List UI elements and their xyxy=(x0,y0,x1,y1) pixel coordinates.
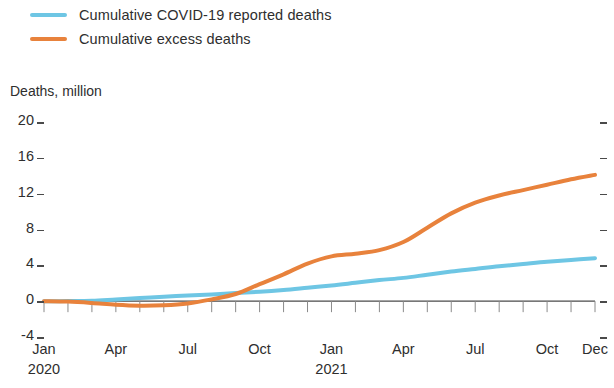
x-axis-tick-label: Apr xyxy=(105,341,128,357)
y-axis-tick-label: 0 xyxy=(8,291,34,307)
plot-svg xyxy=(0,0,614,388)
x-axis-tick-label: Jan xyxy=(32,341,55,357)
y-axis-tick-mark-right xyxy=(600,122,607,124)
y-axis-tick-mark-right xyxy=(600,337,607,339)
chart-figure: Cumulative COVID-19 reported deaths Cumu… xyxy=(0,0,614,388)
y-axis-tick-mark-right xyxy=(600,301,607,303)
y-axis-tick-mark xyxy=(37,158,44,160)
y-axis-tick-mark-right xyxy=(600,265,607,267)
y-axis-tick-mark-right xyxy=(600,158,607,160)
y-axis-tick-label: 16 xyxy=(8,148,34,164)
y-axis-tick-label: 8 xyxy=(8,220,34,236)
x-axis-tick-label: Dec xyxy=(582,341,608,357)
series-line-reported xyxy=(44,258,595,301)
x-axis-year-label: 2021 xyxy=(315,361,347,377)
y-axis-tick-label: 4 xyxy=(8,255,34,271)
x-axis-year-label: 2020 xyxy=(28,361,60,377)
y-axis-tick-mark xyxy=(37,194,44,196)
y-axis-tick-mark-right xyxy=(600,194,607,196)
x-axis-tick-label: Apr xyxy=(392,341,415,357)
y-axis-tick-mark-right xyxy=(600,230,607,232)
y-axis-tick-label: -4 xyxy=(8,327,34,343)
x-axis-tick-label: Jul xyxy=(466,341,485,357)
x-axis-tick-label: Jul xyxy=(178,341,197,357)
x-axis-tick-label: Oct xyxy=(536,341,559,357)
y-axis-tick-label: 12 xyxy=(8,184,34,200)
y-axis-tick-mark xyxy=(37,122,44,124)
x-axis-tick-label: Oct xyxy=(248,341,271,357)
x-axis-tick-label: Jan xyxy=(320,341,343,357)
y-axis-tick-mark xyxy=(37,265,44,267)
y-axis-tick-mark xyxy=(37,337,44,339)
y-axis-tick-mark xyxy=(37,230,44,232)
y-axis-tick-label: 20 xyxy=(8,112,34,128)
plot-area: 201612840-4Jan2020AprJulOctJan2021AprJul… xyxy=(0,0,614,388)
y-axis-tick-mark xyxy=(37,301,44,303)
